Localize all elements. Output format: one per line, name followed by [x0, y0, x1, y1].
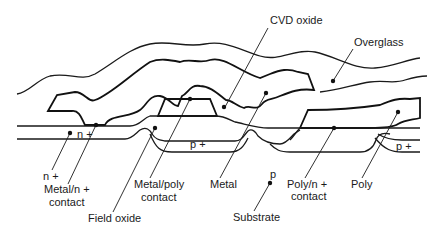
dot-metal-n-contact [94, 123, 98, 127]
cross-section-diagram: n + p + p + CVD oxide Overglass n + Meta… [0, 0, 434, 235]
label-field-oxide: Field oxide [88, 212, 141, 224]
label-metal-poly-contact-2: contact [141, 191, 176, 203]
label-metal-n-contact-2: contact [49, 196, 84, 208]
label-substrate-p: p [270, 168, 276, 180]
surface-line-top [17, 116, 420, 128]
label-poly-n-contact-1: Poly/n + [287, 178, 327, 190]
dot-cvd-oxide [222, 105, 226, 109]
leader-overglass [333, 49, 353, 81]
label-poly: Poly [351, 178, 373, 190]
label-p-plus-right: p + [396, 140, 412, 152]
n-plus-well-right [270, 133, 390, 152]
label-n-plus-callout: n + [43, 170, 59, 182]
poly-gate [158, 99, 217, 116]
label-n-plus-left: n + [77, 128, 93, 140]
leader-cvd-oxide [225, 28, 268, 107]
leader-poly [362, 112, 398, 178]
label-substrate: Substrate [233, 211, 280, 223]
n-plus-right-top [290, 128, 300, 140]
leader-metal-poly-contact-2 [182, 99, 190, 115]
poly-right [300, 98, 420, 128]
label-metal: Metal [210, 178, 237, 190]
dot-field-oxide [153, 126, 157, 130]
leader-substrate [254, 183, 270, 211]
label-metal-n-contact-1: Metal/n + [44, 183, 90, 195]
leader-metal [220, 93, 266, 178]
leader-metal-poly-contact [150, 115, 182, 178]
leader-poly-n-contact [305, 128, 334, 178]
dot-overglass [331, 79, 335, 83]
dot-n-plus [68, 131, 72, 135]
label-overglass: Overglass [354, 36, 404, 48]
label-cvd-oxide: CVD oxide [270, 14, 323, 26]
dot-metal [264, 91, 268, 95]
overglass-top-line [17, 43, 420, 94]
surface-line-2 [17, 128, 300, 144]
dot-poly [396, 110, 400, 114]
label-p-plus-center: p + [190, 138, 206, 150]
dot-poly-n-contact [332, 126, 336, 130]
label-metal-poly-contact-1: Metal/poly [134, 178, 185, 190]
overglass-lower-line [320, 76, 427, 92]
label-poly-n-contact-2: contact [291, 190, 326, 202]
